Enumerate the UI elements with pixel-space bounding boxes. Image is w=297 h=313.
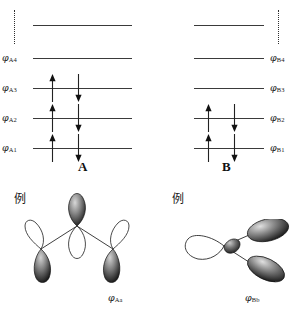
phi-glyph: φ (245, 292, 252, 303)
level-label-b4: φB4 (270, 53, 285, 63)
orbital-lobes-bb (182, 219, 292, 289)
phi-glyph: φ (270, 142, 277, 153)
phi-subscript: Bb (252, 296, 260, 303)
phi-subscript: A2 (9, 116, 17, 123)
level-label-b3: φB3 (270, 83, 285, 93)
spin-up-electron-a1 (48, 134, 57, 162)
spin-up-electron-a2 (48, 104, 57, 132)
level-line-a-top-unlabeled (33, 25, 132, 26)
level-line-b-top-unlabeled (194, 25, 264, 26)
spin-up-electron-b2 (204, 104, 213, 132)
phi-subscript: B3 (277, 86, 285, 93)
phi-subscript: B2 (277, 116, 285, 123)
spin-up-electron-b1 (204, 134, 213, 162)
example-label-bb: 例 (172, 193, 184, 205)
level-label-a4: φA4 (2, 53, 17, 63)
level-label-a1: φA1 (2, 143, 17, 153)
phi-glyph: φ (2, 52, 9, 63)
level-label-b1: φB1 (270, 143, 285, 153)
spin-down-electron-a2 (74, 104, 83, 132)
spin-up-electron-a3 (48, 74, 57, 102)
phi-subscript: B1 (277, 146, 285, 153)
spin-down-electron-b1 (230, 134, 239, 162)
phi-glyph: φ (270, 52, 277, 63)
phi-subscript: Aa (115, 296, 123, 303)
continuation-dots-a (14, 10, 17, 44)
orbital-illustration-aa: 例 (0, 185, 150, 313)
level-label-b2: φB2 (270, 113, 285, 123)
level-label-a2: φA2 (2, 113, 17, 123)
spin-down-electron-a3 (74, 74, 83, 102)
orbital-caption-aa: φAa (108, 293, 123, 303)
phi-subscript: A1 (9, 146, 17, 153)
spin-down-electron-b2 (230, 104, 239, 132)
continuation-dots-b (278, 10, 281, 44)
panel-title-b: B (222, 160, 231, 173)
phi-subscript: A4 (9, 56, 17, 63)
energy-level-panel-b: φB4 φB3 φB2 φB1 (150, 0, 297, 180)
phi-glyph: φ (2, 112, 9, 123)
level-label-a3: φA3 (2, 83, 17, 93)
level-line-b4 (194, 58, 264, 59)
level-line-a4 (33, 58, 132, 59)
phi-glyph: φ (2, 82, 9, 93)
panel-title-a: A (78, 160, 87, 173)
spin-down-electron-a1 (74, 134, 83, 162)
phi-glyph: φ (2, 142, 9, 153)
level-line-b3 (194, 88, 264, 89)
phi-subscript: A3 (9, 86, 17, 93)
orbital-caption-bb: φBb (245, 293, 260, 303)
phi-glyph: φ (270, 82, 277, 93)
orbital-illustration-bb: 例 (150, 185, 297, 313)
energy-level-panel-a: φA4 φA3 φA2 φA1 (0, 0, 150, 180)
phi-glyph: φ (270, 112, 277, 123)
phi-subscript: B4 (277, 56, 285, 63)
orbital-lobes-aa (22, 191, 132, 289)
figure-root: φA4 φA3 φA2 φA1 (0, 0, 297, 313)
phi-glyph: φ (108, 292, 115, 303)
